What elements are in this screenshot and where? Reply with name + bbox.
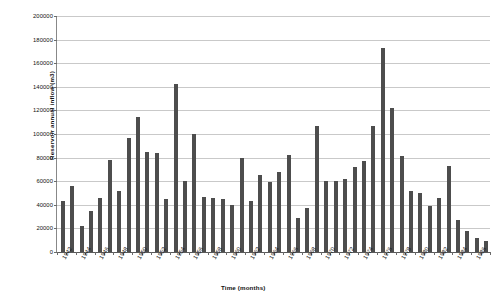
y-tick-label: 100000 [33, 131, 53, 137]
bar [221, 199, 225, 252]
bar [127, 138, 131, 252]
x-tick-mark [132, 252, 133, 255]
x-tick-mark [170, 252, 171, 255]
bar [164, 199, 168, 252]
y-tick-label: 20000 [36, 225, 53, 231]
bar [240, 158, 244, 252]
x-tick-mark [113, 252, 114, 255]
x-tick-mark [95, 252, 96, 255]
x-tick-mark [321, 252, 322, 255]
x-tick-mark [434, 252, 435, 255]
bar [277, 172, 281, 252]
x-tick-mark [302, 252, 303, 255]
bar [381, 48, 385, 252]
y-tick-label: 120000 [33, 107, 53, 113]
x-tick-mark [415, 252, 416, 255]
bar [70, 186, 74, 252]
x-axis-ticks: 1942194419461948195019521954195619581960… [57, 252, 490, 301]
plot-area: 0200004000060000800001000001200001400001… [56, 16, 490, 253]
bar [362, 161, 366, 252]
x-tick-mark [57, 252, 58, 255]
x-tick-mark [151, 252, 152, 255]
y-tick-label: 40000 [36, 202, 53, 208]
bar [447, 166, 451, 252]
bar [324, 181, 328, 252]
bar [98, 198, 102, 252]
y-tick-label: 80000 [36, 155, 53, 161]
bar [80, 226, 84, 252]
bar [305, 208, 309, 252]
x-tick-mark [76, 252, 77, 255]
bar [268, 182, 272, 252]
bar [136, 117, 140, 252]
bar [428, 206, 432, 252]
x-tick-mark [339, 252, 340, 255]
bar [371, 126, 375, 252]
x-tick-mark [452, 252, 453, 255]
bar-chart: Reservoir annual inflow (m3) 02000040000… [0, 0, 499, 301]
x-tick-mark [264, 252, 265, 255]
bars-series [57, 16, 490, 252]
y-tick-label: 200000 [33, 13, 53, 19]
bar [437, 198, 441, 252]
bar [61, 201, 65, 252]
x-tick-mark [208, 252, 209, 255]
bar [211, 198, 215, 252]
bar [89, 211, 93, 252]
bar [287, 155, 291, 252]
bar [456, 220, 460, 252]
x-tick-mark [358, 252, 359, 255]
x-tick-mark [245, 252, 246, 255]
x-axis-title: Time (months) [221, 284, 265, 291]
x-tick-mark [283, 252, 284, 255]
bar [155, 153, 159, 252]
bar [315, 126, 319, 252]
bar [409, 191, 413, 252]
bar [400, 156, 404, 252]
bar [202, 197, 206, 252]
bar [108, 160, 112, 252]
x-tick-mark [396, 252, 397, 255]
y-tick-label: 0 [50, 249, 53, 255]
x-tick-mark [490, 252, 491, 255]
bar [117, 191, 121, 252]
bar [390, 108, 394, 252]
bar [418, 193, 422, 252]
bar [343, 179, 347, 252]
bar [334, 181, 338, 252]
bar [174, 84, 178, 252]
bar [353, 167, 357, 252]
bar [258, 175, 262, 252]
y-tick-label: 160000 [33, 60, 53, 66]
x-tick-mark [189, 252, 190, 255]
bar [192, 134, 196, 252]
y-tick-label: 140000 [33, 84, 53, 90]
x-tick-mark [377, 252, 378, 255]
bar [183, 181, 187, 252]
bar [145, 152, 149, 252]
y-tick-label: 60000 [36, 178, 53, 184]
x-tick-mark [226, 252, 227, 255]
y-tick-label: 180000 [33, 37, 53, 43]
bar [230, 205, 234, 252]
x-tick-mark [471, 252, 472, 255]
bar [249, 201, 253, 252]
